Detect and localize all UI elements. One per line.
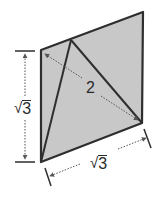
bottom-dim-arrow-right [118, 138, 146, 149]
radicand: 3 [98, 155, 107, 171]
radicand: 3 [22, 100, 31, 116]
bottom-side-label: √ 3 [90, 155, 107, 171]
sqrt-symbol: √ [90, 155, 98, 171]
sqrt-symbol: √ [14, 100, 22, 116]
bottom-dim-arrow-left [50, 164, 80, 176]
diagonal-label: 2 [86, 80, 95, 96]
bottom-dim-tick-right [144, 129, 151, 148]
bottom-dim-tick-left [45, 168, 51, 186]
left-side-label: √ 3 [14, 100, 31, 116]
